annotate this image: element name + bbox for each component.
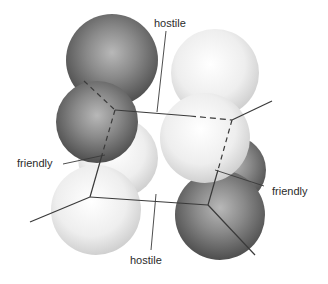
label-bottom-hostile: hostile (130, 254, 162, 266)
label-right-friendly: friendly (272, 185, 307, 197)
sphere-light-right-lower (160, 93, 250, 183)
right-light-pair (160, 29, 259, 183)
sphere-dark-top-lower (56, 81, 138, 163)
leader-bottom-hostile (151, 194, 156, 250)
label-top-hostile: hostile (154, 17, 186, 29)
label-left-friendly: friendly (17, 157, 52, 169)
sphere-dark-right-lower (175, 170, 265, 260)
sphere-light-left-lower (51, 165, 141, 255)
leader-top-hostile (157, 31, 166, 112)
molecule-interaction-diagram (0, 0, 328, 284)
